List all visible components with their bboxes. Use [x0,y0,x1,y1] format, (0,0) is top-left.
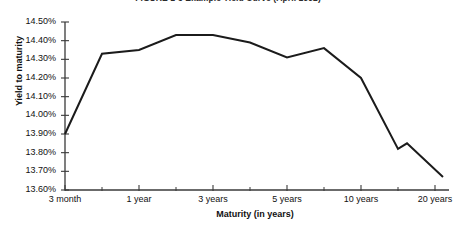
x-tick-label: 20 years [418,194,453,204]
x-axis-tick-labels: 3 month1 year3 years5 years10 years20 ye… [0,0,456,228]
x-tick-label: 3 month [49,194,82,204]
x-tick-label: 3 years [198,194,228,204]
x-axis-title: Maturity (in years) [60,209,450,219]
x-tick-label: 1 year [126,194,151,204]
x-tick-label: 10 years [344,194,379,204]
x-tick-label: 5 years [272,194,302,204]
yield-curve-figure: FIGURE 1-3 Example Yield Curve (April 19… [0,0,456,228]
